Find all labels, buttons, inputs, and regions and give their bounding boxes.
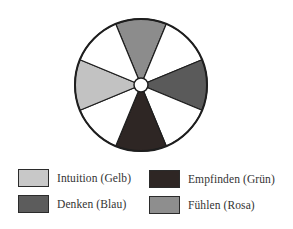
legend-swatch-fuehlen xyxy=(149,196,180,214)
legend-swatch-denken xyxy=(18,195,49,213)
wheel-center-hole xyxy=(134,78,148,92)
function-color-wheel xyxy=(0,0,293,165)
legend-label-denken: Denken (Blau) xyxy=(57,197,126,211)
legend-label-fuehlen: Fühlen (Rosa) xyxy=(188,198,255,212)
legend-label-intuition: Intuition (Gelb) xyxy=(57,171,131,185)
legend-label-empfinden: Empfinden (Grün) xyxy=(188,172,275,186)
legend-swatch-intuition xyxy=(18,169,49,187)
legend-swatch-empfinden xyxy=(149,170,180,188)
